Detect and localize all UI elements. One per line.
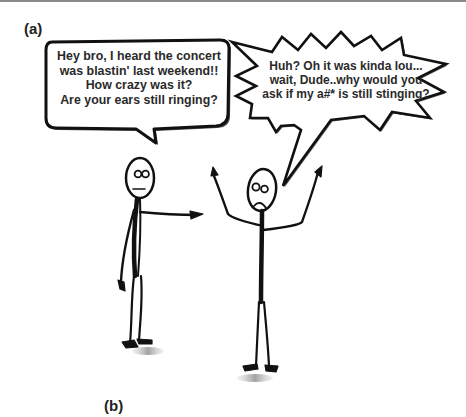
bubble-right-line: wait, Dude..why would you [258, 73, 434, 87]
speech-bubble-left-text: Hey bro, I heard the concert was blastin… [52, 49, 226, 107]
right-figure-hand-left [211, 167, 218, 176]
bubble-right-line: Huh? Oh it was kinda lou... [258, 59, 434, 73]
bubble-left-line: was blastin' last weekend!! [52, 64, 226, 79]
bubble-left-line: Hey bro, I heard the concert [52, 49, 226, 64]
left-figure-shadow [132, 347, 164, 355]
right-figure-shadow [237, 374, 273, 382]
left-figure-hand-pointing [190, 211, 203, 219]
bubble-left-line: Are your ears still ringing? [52, 93, 226, 108]
shout-bubble-right [232, 32, 448, 188]
left-figure-head [126, 158, 154, 198]
shout-bubble-right-text: Huh? Oh it was kinda lou... wait, Dude..… [258, 59, 434, 101]
panel-label-b: (b) [104, 397, 123, 414]
bubble-right-line: ask if my a#* is still stinging? [258, 87, 434, 101]
left-stick-figure [118, 158, 203, 355]
bubble-left-line: How crazy was it? [52, 78, 226, 93]
right-stick-figure [211, 166, 322, 382]
